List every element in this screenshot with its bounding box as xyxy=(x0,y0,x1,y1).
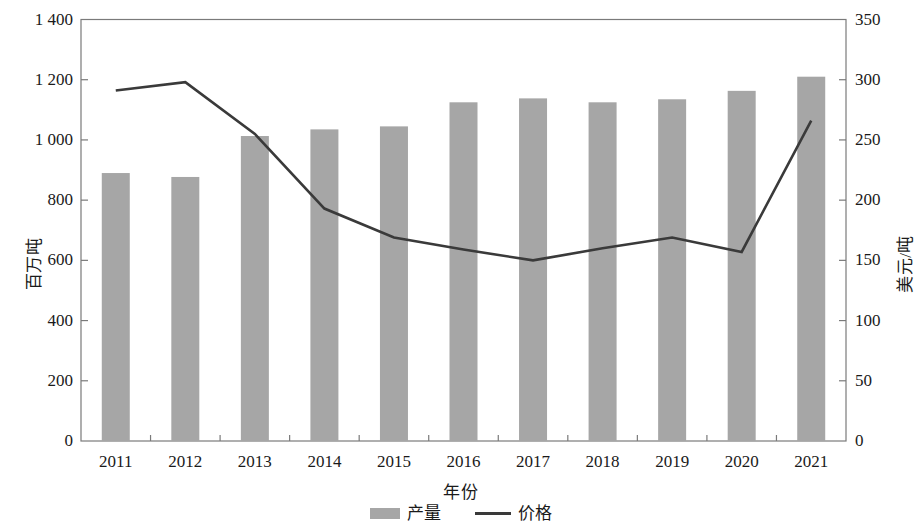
plot-area xyxy=(0,0,921,500)
bar-swatch-icon xyxy=(370,508,400,519)
x-axis-tick-2019: 2019 xyxy=(637,453,707,470)
bar-2011 xyxy=(102,173,130,441)
chart-container: 百万吨 美元/吨 年份 02004006008001 0001 2001 400… xyxy=(0,0,921,528)
legend-item-price: 价格 xyxy=(475,505,552,522)
x-axis-tick-2016: 2016 xyxy=(429,453,499,470)
x-axis-tick-2017: 2017 xyxy=(498,453,568,470)
x-axis-tick-2011: 2011 xyxy=(81,453,151,470)
bar-2014 xyxy=(310,129,338,441)
y-axis-left-tick: 1 200 xyxy=(35,71,73,88)
legend-item-production: 产量 xyxy=(370,505,441,522)
bar-2012 xyxy=(171,177,199,441)
x-axis-tick-2020: 2020 xyxy=(707,453,777,470)
x-axis-tick-2013: 2013 xyxy=(220,453,290,470)
y-axis-right-tick: 300 xyxy=(855,71,881,88)
y-axis-left-tick: 800 xyxy=(48,191,74,208)
y-axis-left-tick: 200 xyxy=(48,372,74,389)
y-axis-right-tick: 50 xyxy=(855,372,872,389)
x-axis-tick-2014: 2014 xyxy=(289,453,359,470)
y-axis-right-tick: 250 xyxy=(855,131,881,148)
bar-2013 xyxy=(241,136,269,441)
y-axis-left-tick: 400 xyxy=(48,312,74,329)
legend-label-price: 价格 xyxy=(518,505,552,522)
y-axis-left-tick: 1 400 xyxy=(35,11,73,28)
bar-2021 xyxy=(797,77,825,441)
y-axis-right-tick: 150 xyxy=(855,251,881,268)
bar-2017 xyxy=(519,98,547,441)
line-swatch-icon xyxy=(475,512,511,515)
legend-label-production: 产量 xyxy=(407,505,441,522)
chart-legend: 产量 价格 xyxy=(0,505,921,522)
x-axis-tick-2015: 2015 xyxy=(359,453,429,470)
y-axis-right-tick: 350 xyxy=(855,11,881,28)
bar-2016 xyxy=(450,102,478,441)
y-axis-right-tick: 100 xyxy=(855,312,881,329)
bar-2018 xyxy=(589,102,617,441)
x-axis-tick-2018: 2018 xyxy=(568,453,638,470)
x-axis-tick-2012: 2012 xyxy=(150,453,220,470)
y-axis-left-tick: 600 xyxy=(48,251,74,268)
bar-2019 xyxy=(658,99,686,441)
bar-2015 xyxy=(380,126,408,441)
bar-2020 xyxy=(728,91,756,441)
y-axis-right-tick: 0 xyxy=(855,432,864,449)
x-axis-tick-2021: 2021 xyxy=(776,453,846,470)
y-axis-left-tick: 1 000 xyxy=(35,131,73,148)
y-axis-left-tick: 0 xyxy=(65,432,74,449)
y-axis-right-tick: 200 xyxy=(855,191,881,208)
